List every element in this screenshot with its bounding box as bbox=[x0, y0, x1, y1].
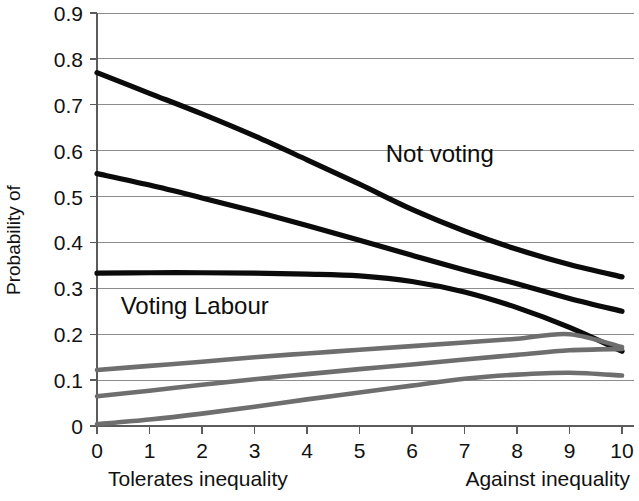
y-tick-label-0.6: 0.6 bbox=[54, 140, 83, 163]
y-tick-label-0.1: 0.1 bbox=[54, 369, 83, 392]
series-line-0 bbox=[97, 73, 622, 277]
line-chart: 00.10.20.30.40.50.60.70.80.9 01234567891… bbox=[0, 0, 639, 501]
x-tick-label-1: 1 bbox=[144, 439, 156, 462]
chart-annotation-0: Not voting bbox=[386, 140, 494, 167]
x-tick-label-8: 8 bbox=[511, 439, 523, 462]
y-tick-label-0.5: 0.5 bbox=[54, 186, 83, 209]
series-group bbox=[97, 73, 622, 425]
x-tick-label-9: 9 bbox=[564, 439, 576, 462]
y-tick-label-0: 0 bbox=[71, 415, 83, 438]
y-tick-labels-group: 00.10.20.30.40.50.60.70.80.9 bbox=[54, 2, 84, 438]
y-axis-title: Probability of bbox=[3, 184, 24, 295]
chart-annotation-1: Voting Labour bbox=[121, 292, 269, 319]
x-tick-label-6: 6 bbox=[406, 439, 418, 462]
x-tick-label-7: 7 bbox=[459, 439, 471, 462]
x-tick-label-2: 2 bbox=[196, 439, 208, 462]
x-axis-left-label: Tolerates inequality bbox=[108, 467, 288, 490]
y-tick-label-0.8: 0.8 bbox=[54, 48, 83, 71]
x-tick-label-0: 0 bbox=[91, 439, 103, 462]
annotations-group: Not votingVoting Labour bbox=[121, 140, 494, 318]
y-tick-label-0.3: 0.3 bbox=[54, 277, 83, 300]
x-tick-label-10: 10 bbox=[610, 439, 633, 462]
y-tick-label-0.2: 0.2 bbox=[54, 323, 83, 346]
x-tick-label-5: 5 bbox=[354, 439, 366, 462]
x-tick-label-3: 3 bbox=[249, 439, 261, 462]
x-axis-right-label: Against inequality bbox=[465, 467, 630, 490]
y-tick-label-0.9: 0.9 bbox=[54, 2, 83, 25]
x-tick-label-4: 4 bbox=[301, 439, 313, 462]
chart-figure: 00.10.20.30.40.50.60.70.80.9 01234567891… bbox=[0, 0, 639, 501]
y-tick-label-0.4: 0.4 bbox=[54, 231, 84, 254]
y-tick-label-0.7: 0.7 bbox=[54, 94, 83, 117]
x-tick-labels-group: 012345678910 bbox=[91, 439, 634, 462]
